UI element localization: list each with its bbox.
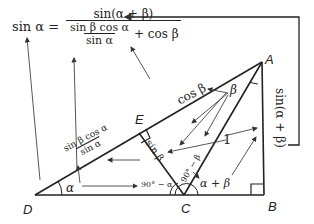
label-ninety-minus-alpha: 90° − α xyxy=(141,181,172,189)
label-beta: β xyxy=(230,84,237,96)
vertex-c-label: C xyxy=(181,202,190,215)
vertex-d-label: D xyxy=(23,203,32,216)
vertex-e-label: E xyxy=(135,113,144,126)
formula-inner-numerator: sin β cos α xyxy=(68,22,131,33)
label-one: 1 xyxy=(223,133,231,146)
formula-inner-denominator: sin α xyxy=(84,33,115,46)
label-alpha: α xyxy=(66,182,74,194)
formula-main-fraction: sin(α + β) sin β cos α sin α + cos β xyxy=(66,8,181,46)
vertex-b-label: B xyxy=(268,200,277,213)
formula-inner-fraction: sin β cos α sin α xyxy=(68,22,131,46)
trig-diagram: sin α = sin(α + β) sin β cos α sin α + c… xyxy=(0,0,314,224)
label-alpha-plus-beta: α + β xyxy=(200,178,230,189)
formula-plus-term: + cos β xyxy=(134,28,179,40)
label-sin-alpha-plus-beta: sin(α + β) xyxy=(274,88,286,148)
vertex-a-label: A xyxy=(265,53,274,66)
formula-numerator: sin(α + β) xyxy=(91,8,155,20)
triangle-lines xyxy=(35,62,264,195)
formula-lhs: sin α = xyxy=(12,20,59,33)
formula-denominator: sin β cos α sin α + cos β xyxy=(66,20,181,46)
